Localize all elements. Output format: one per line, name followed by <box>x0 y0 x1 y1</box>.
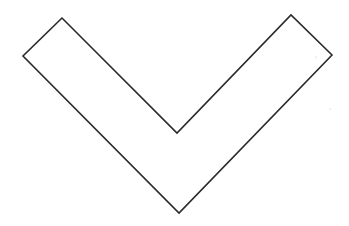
noise-speck <box>315 56 316 57</box>
noise-speck <box>329 108 330 109</box>
diagram-canvas <box>0 0 349 226</box>
chevron-down-icon <box>0 0 349 226</box>
chevron-outline <box>23 15 332 213</box>
